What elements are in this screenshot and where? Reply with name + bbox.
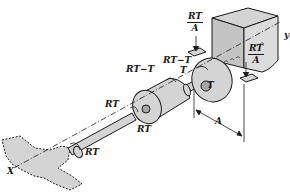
label-reducer-T-lower: T: [207, 81, 214, 90]
driven-plate: [2, 136, 82, 190]
reducer-hub: [142, 105, 150, 113]
motor-foot-right: [240, 74, 258, 82]
label-reducer-output-torque: RT−T: [126, 65, 154, 74]
diagram-drawing: [0, 0, 290, 193]
label-shaft-torque-lower: RT: [137, 125, 151, 134]
label-axis-x: X: [7, 167, 14, 176]
label-axis-y: y: [284, 31, 289, 40]
label-shaft-torque-upper: RT: [105, 100, 119, 109]
label-motor-side-reaction: RT A: [248, 44, 264, 65]
label-motor-input-torque: RT−T: [163, 56, 191, 65]
label-dimension-A: A: [215, 117, 222, 126]
label-shaft-torque-coupling: RT: [85, 148, 99, 157]
label-reducer-T-upper: T: [180, 66, 187, 75]
label-motor-top-reaction: RT A: [187, 12, 203, 33]
shaft-motor-diagram: RT A RT A RT−T RT−T T T RT RT RT X y A: [0, 0, 290, 193]
axis-line: [14, 22, 280, 168]
